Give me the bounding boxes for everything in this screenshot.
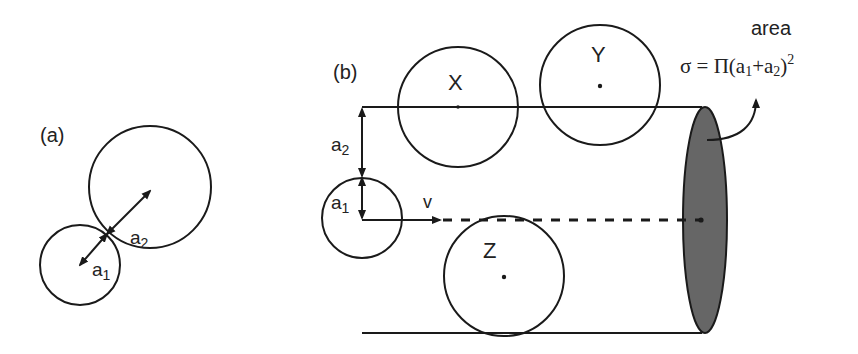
label-b-a2: a2: [331, 134, 350, 158]
cross-section-ellipse: [683, 107, 727, 333]
panel-b: (b) X Y a2 a1 v Z area σ = Π: [322, 17, 794, 336]
radius-a2-arrow: [107, 191, 150, 234]
trajectory-end-point: [698, 217, 703, 222]
diagram-svg: (a) a2 a1 (b) X Y a2 a1 v: [0, 0, 858, 354]
panel-b-label: (b): [333, 61, 357, 83]
sphere-y-label: Y: [591, 42, 606, 67]
label-b-a1: a1: [331, 192, 350, 216]
panel-a: (a) a2 a1: [40, 124, 211, 305]
velocity-label: v: [423, 192, 432, 212]
sphere-x-label: X: [448, 70, 463, 95]
area-label: area: [751, 17, 792, 39]
label-a1: a1: [92, 259, 111, 283]
sphere-x-center: [456, 105, 460, 109]
collision-cross-section-diagram: (a) a2 a1 (b) X Y a2 a1 v: [0, 0, 858, 354]
sphere-y-center: [598, 84, 602, 88]
panel-a-label: (a): [40, 124, 64, 146]
label-a2: a2: [130, 227, 149, 251]
large-particle-circle: [89, 126, 211, 248]
sphere-z-label: Z: [483, 238, 496, 263]
cross-section-formula: σ = Π(a1+a2)2: [680, 52, 794, 79]
sphere-z-center: [502, 275, 506, 279]
